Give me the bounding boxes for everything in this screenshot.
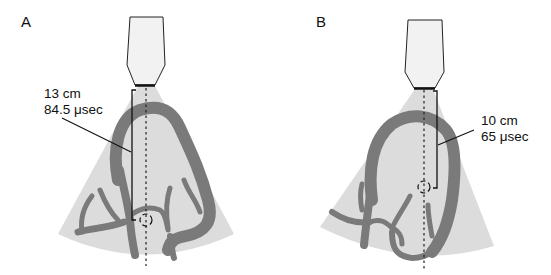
panel-b: B 10 cm	[316, 13, 529, 270]
panel-b-transducer	[405, 20, 444, 88]
ultrasound-depth-diagram: A 13 cm	[0, 0, 551, 275]
panel-a: A 13 cm	[21, 13, 234, 266]
panel-b-depth-text: 10 cm	[481, 113, 518, 128]
panel-a-time-text: 84.5 μsec	[44, 102, 103, 117]
panel-a-depth-text: 13 cm	[44, 86, 81, 101]
panel-a-transducer	[127, 17, 165, 85]
panel-b-label: B	[316, 13, 326, 30]
panel-b-time-text: 65 μsec	[481, 129, 529, 144]
panel-a-label: A	[21, 13, 31, 30]
